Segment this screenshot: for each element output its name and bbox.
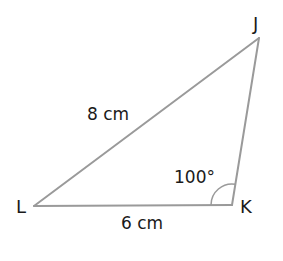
side-label-lj: 8 cm <box>87 106 129 123</box>
vertex-label-j: J <box>253 15 258 33</box>
side-lj <box>34 38 259 206</box>
side-label-lk: 6 cm <box>121 215 163 232</box>
vertex-label-k: K <box>240 198 252 216</box>
vertex-label-l: L <box>16 198 26 216</box>
side-lk <box>34 205 232 206</box>
side-kj <box>232 38 259 205</box>
angle-label-k: 100° <box>174 169 215 186</box>
